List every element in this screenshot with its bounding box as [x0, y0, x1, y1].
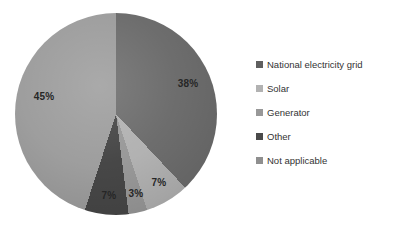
pie-chart-figure: 38% 7% 3% 7% 45% National electricity gr… — [0, 0, 396, 225]
legend-item-label: National electricity grid — [267, 59, 363, 70]
legend-item-national-electricity-grid: National electricity grid — [256, 52, 363, 76]
legend-item-label: Not applicable — [267, 155, 327, 166]
slice-label-other: 7% — [102, 190, 117, 201]
legend-marker — [256, 133, 263, 140]
pie-chart-area: 38% 7% 3% 7% 45% — [15, 13, 217, 215]
legend-marker — [256, 157, 263, 164]
slice-label-not-applicable: 45% — [34, 91, 55, 102]
legend-item-other: Other — [256, 124, 363, 148]
slice-label-solar: 7% — [152, 177, 167, 188]
legend-item-generator: Generator — [256, 100, 363, 124]
legend-marker — [256, 109, 263, 116]
legend: National electricity grid Solar Generato… — [256, 52, 363, 172]
legend-item-not-applicable: Not applicable — [256, 148, 363, 172]
legend-marker — [256, 85, 263, 92]
legend-item-label: Other — [267, 131, 291, 142]
slice-label-national-electricity-grid: 38% — [178, 78, 199, 89]
legend-item-label: Solar — [267, 83, 289, 94]
legend-item-solar: Solar — [256, 76, 363, 100]
legend-marker — [256, 61, 263, 68]
slice-label-generator: 3% — [129, 188, 144, 199]
legend-item-label: Generator — [267, 107, 310, 118]
pie-chart — [15, 13, 217, 215]
